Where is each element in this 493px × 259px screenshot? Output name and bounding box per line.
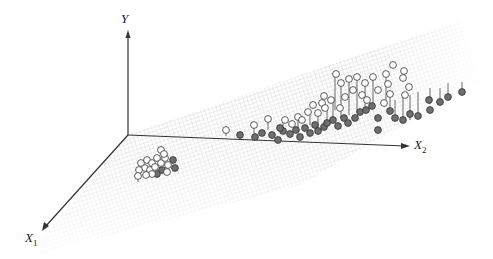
regression-plane-figure xyxy=(0,0,493,259)
x2-label-subscript: 2 xyxy=(422,145,427,155)
x2-label-text: X xyxy=(414,137,422,152)
x1-label-subscript: 1 xyxy=(33,238,38,248)
x2-axis-arrow-icon xyxy=(401,143,410,149)
x1-label-text: X xyxy=(25,230,33,245)
y-label-text: Y xyxy=(121,11,128,26)
x2-axis-label: X2 xyxy=(414,137,426,155)
y-axis-label: Y xyxy=(121,11,128,27)
y-axis-arrow-icon xyxy=(126,30,131,38)
x1-axis-label: X1 xyxy=(25,230,37,248)
